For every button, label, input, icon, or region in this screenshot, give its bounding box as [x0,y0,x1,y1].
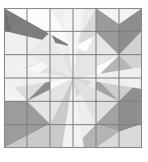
quilt-pattern-canvas [0,0,148,162]
quilt-block-figure [0,0,148,162]
